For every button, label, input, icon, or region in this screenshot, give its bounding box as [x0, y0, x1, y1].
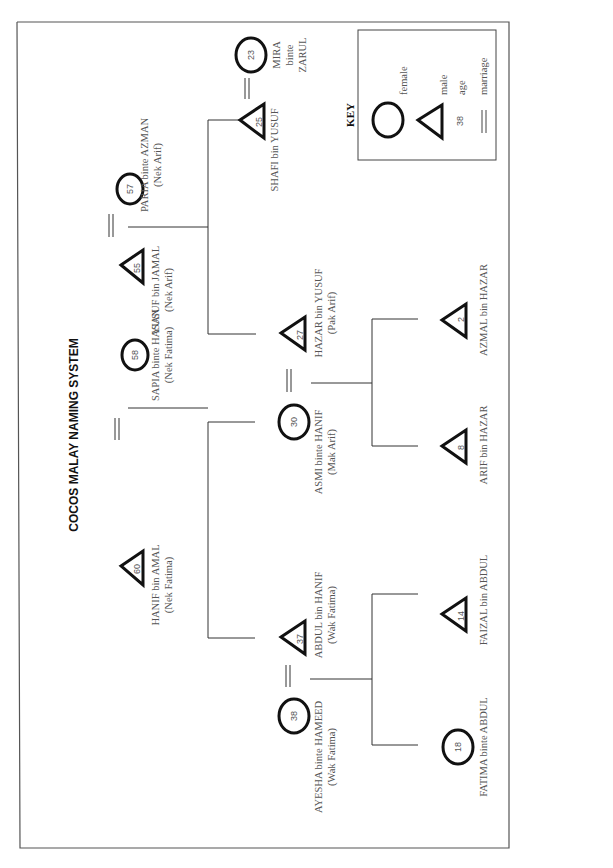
key-male-label: male — [438, 74, 449, 95]
key-marriage-label: marriage — [478, 57, 489, 95]
person-paria: 57 PARIA binte AZMAN (Nek Arif) — [117, 118, 164, 213]
age: 38 — [289, 711, 299, 721]
person-alias: (Nek Fatima) — [163, 326, 175, 383]
person-name: ZARUL — [297, 38, 308, 73]
person-arif: 8 ARIF bin HAZAR — [442, 406, 489, 485]
person-name: ASMI binte HANIF — [313, 410, 324, 495]
age: 23 — [246, 50, 256, 60]
person-hanif: 60 HANIF bin AMAL (Nek Fatima) — [121, 544, 175, 625]
age: 55 — [132, 263, 142, 273]
person-alias: (Nek Arif) — [163, 267, 175, 312]
person-yusuf: 55 YUSUF bin JAMAL (Nek Arif) — [121, 246, 175, 334]
person-name: ABDUL bin HANIF — [313, 572, 324, 659]
person-alias: (Nek Arif) — [152, 142, 164, 187]
key-female-label: female — [398, 66, 409, 95]
person-shafi: 25 SHAFI bin YUSUF — [240, 104, 280, 192]
person-name: HANIF bin AMAL — [150, 544, 161, 625]
key-title: KEY — [344, 103, 356, 127]
person-name: YUSUF bin JAMAL — [150, 246, 161, 334]
person-name: ARIF bin HAZAR — [478, 406, 489, 485]
person-name: binte — [284, 44, 295, 65]
person-name: FAIZAL bin ABDUL — [478, 555, 489, 645]
age: 2 — [456, 317, 466, 322]
person-name: MIRA — [271, 41, 282, 69]
person-ayesha: 38 AYESHA binte HAMEED (Wak Fatima) — [279, 699, 338, 813]
person-hazar: 27 HAZAR bin YUSUF (Pak Arif) — [281, 268, 338, 357]
person-name: HAZAR bin YUSUF — [313, 268, 324, 357]
person-alias: (Wak Fatima) — [326, 728, 338, 786]
person-mira: 23 MIRA binte ZARUL — [236, 38, 308, 73]
person-alias: (Pak Arif) — [326, 291, 338, 334]
female-icon — [373, 103, 403, 137]
key-age-label: age — [456, 80, 467, 95]
age: 37 — [295, 634, 305, 644]
connectors — [128, 120, 418, 745]
diagram-frame — [17, 22, 509, 848]
key-box: KEY female male 38 age marriage — [344, 30, 496, 160]
person-alias: (Mak Arif) — [326, 429, 338, 475]
person-alias: (Nek Fatima) — [163, 556, 175, 613]
person-sapia: 58 SAPIA binte HASAN (Nek Fatima) — [122, 308, 175, 401]
person-name: PARIA binte AZMAN — [139, 118, 150, 213]
person-faizal: 14 FAIZAL bin ABDUL — [442, 555, 489, 645]
person-name: AYESHA binte HAMEED — [313, 700, 324, 813]
key-age-sample: 38 — [455, 116, 465, 126]
person-abdul: 37 ABDUL bin HANIF (Wak Fatima) — [281, 572, 338, 659]
person-alias: (Wak Fatima) — [326, 586, 338, 644]
person-name: FATIMA binte ABDUL — [478, 697, 489, 797]
age: 14 — [456, 611, 466, 621]
person-asmi: 30 ASMI binte HANIF (Mak Arif) — [279, 405, 338, 494]
diagram-title: COCOS MALAY NAMING SYSTEM — [67, 338, 81, 531]
marriage-marks — [109, 78, 291, 687]
age: 57 — [125, 184, 135, 194]
person-name: AZMAL bin HAZAR — [478, 264, 489, 356]
age: 27 — [295, 330, 305, 340]
person-fatima: 18 FATIMA binte ABDUL — [443, 697, 489, 797]
age: 25 — [254, 117, 264, 127]
male-icon — [418, 105, 442, 138]
age: 30 — [289, 417, 299, 427]
kinship-diagram: COCOS MALAY NAMING SYSTEM KEY female mal… — [0, 0, 613, 868]
age: 60 — [132, 564, 142, 574]
age: 18 — [453, 742, 463, 752]
age: 8 — [456, 445, 466, 450]
marriage-icon — [482, 110, 486, 133]
person-name: SHAFI bin YUSUF — [269, 108, 280, 191]
age: 58 — [130, 350, 140, 360]
